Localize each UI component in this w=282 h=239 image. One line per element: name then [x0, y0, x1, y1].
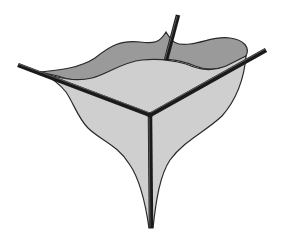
- membrane-diagram: [0, 0, 282, 239]
- membrane-figure: [0, 0, 282, 239]
- rod-junction: [148, 113, 153, 118]
